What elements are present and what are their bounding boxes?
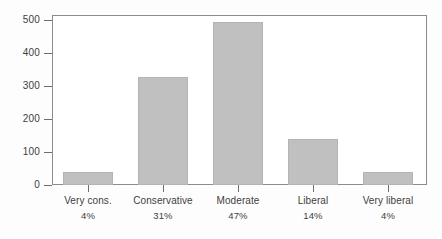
bar-moderate bbox=[213, 22, 263, 185]
y-tick-mark-100 bbox=[44, 152, 52, 153]
bar-chart: 500 400 300 200 100 0 Very cons. 4% bbox=[0, 0, 442, 239]
y-tick-200: 200 bbox=[0, 119, 52, 120]
y-tick-500: 500 bbox=[0, 20, 52, 21]
y-tick-label-300: 300 bbox=[23, 79, 40, 92]
y-tick-mark-300 bbox=[44, 86, 52, 87]
bar-conservative bbox=[138, 77, 188, 185]
y-tick-mark-500 bbox=[44, 20, 52, 21]
x-label-very-liberal: Very liberal bbox=[338, 194, 438, 208]
x-tick-mark-conservative bbox=[163, 185, 164, 192]
y-tick-label-500: 500 bbox=[23, 13, 40, 26]
x-tick-mark-very-cons bbox=[88, 185, 89, 192]
bars-layer bbox=[52, 15, 427, 185]
y-tick-mark-200 bbox=[44, 119, 52, 120]
y-tick-300: 300 bbox=[0, 86, 52, 87]
bar-liberal bbox=[288, 139, 338, 185]
y-tick-400: 400 bbox=[0, 53, 52, 54]
x-tick-mark-liberal bbox=[313, 185, 314, 192]
y-tick-label-0: 0 bbox=[34, 178, 40, 191]
y-tick-label-100: 100 bbox=[23, 145, 40, 158]
y-tick-label-400: 400 bbox=[23, 46, 40, 59]
y-tick-mark-400 bbox=[44, 53, 52, 54]
bar-very-liberal bbox=[363, 172, 413, 185]
y-tick-100: 100 bbox=[0, 152, 52, 153]
bar-very-cons bbox=[63, 172, 113, 185]
x-tick-mark-very-liberal bbox=[388, 185, 389, 192]
x-percent-very-liberal: 4% bbox=[338, 208, 438, 223]
x-label-group-very-liberal: Very liberal 4% bbox=[338, 194, 438, 223]
y-tick-mark-0 bbox=[44, 185, 52, 186]
y-tick-0: 0 bbox=[0, 185, 52, 186]
x-tick-mark-moderate bbox=[238, 185, 239, 192]
y-tick-label-200: 200 bbox=[23, 112, 40, 125]
x-axis: Very cons. 4% Conservative 31% Moderate … bbox=[52, 185, 427, 239]
